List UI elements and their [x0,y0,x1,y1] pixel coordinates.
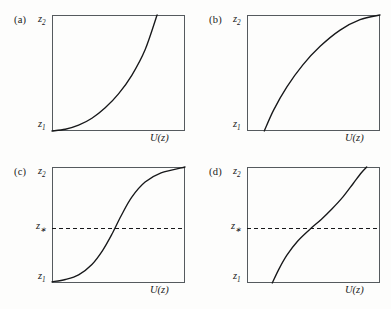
panel-c-ylabel-bottom: z1 [38,270,46,284]
panel-c-ylabel-top: z2 [38,165,46,179]
panel-b-ylabel-bottom: z1 [233,118,241,132]
panel-b-xlabel: U(z) [345,132,364,143]
panel-b-ylabel-top: z2 [233,13,241,27]
panel-c-tag: (c) [14,166,26,177]
panel-b-plot-box [247,15,380,131]
panel-d-ylabel-top: z2 [233,165,241,179]
panel-b-tag: (b) [209,14,222,25]
panel-a-ylabel-top: z2 [38,13,46,27]
panel-d-xlabel: U(z) [345,284,364,295]
panel-a-xlabel: U(z) [150,132,169,143]
panel-a-tag: (a) [14,14,26,25]
panel-d-ylabel-star: z∗ [231,220,241,234]
panel-c-plot-box [52,167,185,283]
panel-c-xlabel: U(z) [150,284,169,295]
panel-c-ylabel-star: z∗ [36,220,46,234]
panel-d-ylabel-bottom: z1 [233,270,241,284]
panel-a-plot-box [52,15,185,131]
panel-d-tag: (d) [209,166,222,177]
panel-d-plot-box [247,167,380,283]
panel-a-ylabel-bottom: z1 [38,118,46,132]
figure-container: (a) z2 z1 U(z) (b) z2 z1 U(z) (c) z2 z∗ … [0,0,391,309]
